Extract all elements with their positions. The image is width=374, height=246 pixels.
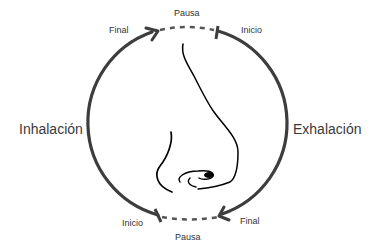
exhalation-start-tick-icon <box>216 26 218 39</box>
inhalation-arc <box>88 32 158 215</box>
top-inicio-label: Inicio <box>241 25 262 35</box>
bottom-pause-dashed-arc <box>162 217 218 220</box>
inhalacion-label: Inhalación <box>19 121 83 137</box>
bottom-pause-label: Pausa <box>175 232 201 242</box>
top-final-label: Final <box>109 25 129 35</box>
top-pause-label: Pausa <box>174 8 200 18</box>
bottom-inicio-label: Inicio <box>122 218 143 228</box>
nose-illustration-icon <box>157 44 238 192</box>
exhalacion-label: Exhalación <box>293 121 362 137</box>
exhalation-arc <box>218 31 287 214</box>
top-pause-dashed-arc <box>160 27 214 30</box>
breathing-cycle-diagram: Pausa Final Inicio Inhalación Exhalación… <box>0 0 374 246</box>
bottom-final-label: Final <box>240 216 260 226</box>
